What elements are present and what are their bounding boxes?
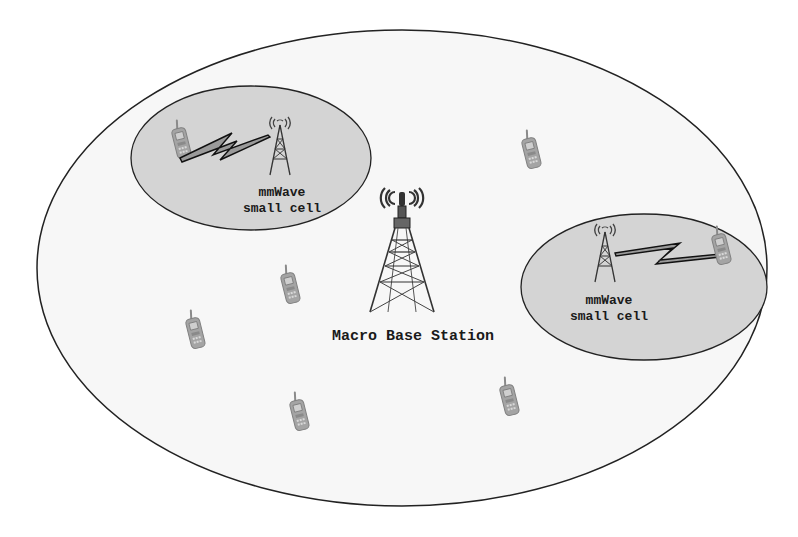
small-cell-left-label-line2: small cell: [243, 201, 321, 216]
small-cell-right-label-line2: small cell: [570, 309, 648, 324]
small-cell-right: mmWave small cell: [521, 214, 767, 360]
small-cell-left-label-line1: mmWave: [259, 185, 306, 200]
small-cell-right-label-line1: mmWave: [586, 293, 633, 308]
small-cell-left: mmWave small cell: [131, 86, 371, 230]
hetnet-diagram: mmWave small cell mmWave small cell: [0, 0, 798, 537]
small-cell-right-coverage: [521, 214, 767, 360]
macro-base-station-label: Macro Base Station: [332, 328, 494, 345]
